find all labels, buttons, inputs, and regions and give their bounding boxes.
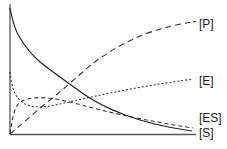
axes	[10, 4, 196, 135]
series-e-line	[10, 72, 193, 107]
series-s-line	[10, 8, 192, 131]
series-p-line	[10, 22, 193, 134]
series-p-connector	[193, 22, 196, 23]
label-e: [E]	[199, 75, 214, 87]
label-s: [S]	[199, 127, 214, 139]
label-es: [ES]	[199, 112, 222, 124]
series-es-line	[10, 98, 193, 134]
label-p: [P]	[199, 18, 214, 30]
concentration-time-chart	[0, 0, 227, 149]
